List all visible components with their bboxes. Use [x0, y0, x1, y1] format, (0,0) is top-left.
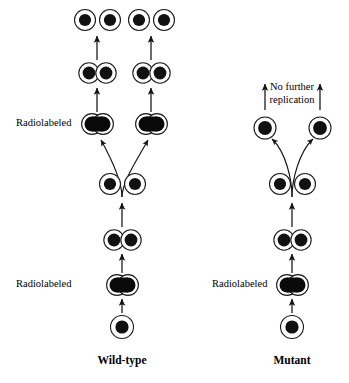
- cell-fused-left: [82, 114, 114, 135]
- cell-group-left: [75, 10, 121, 31]
- cell-nucleus-bridge: [146, 117, 157, 132]
- radiolabeled-label-lower: Radiolabeled: [16, 278, 72, 289]
- stage-separated-daughters-gen4: [75, 10, 175, 31]
- stage-radiolabeled-dividing-cell-gen1: [277, 275, 309, 296]
- radiolabeled-label-upper: Radiolabeled: [16, 117, 72, 128]
- cell-nucleus: [313, 121, 327, 135]
- cell-nucleus-bridge: [117, 278, 128, 293]
- cell-group-right: [129, 10, 175, 31]
- cell-nucleus: [83, 67, 96, 80]
- stage-dividing-cells-gen4: [79, 63, 170, 83]
- stage-founder-cell: [281, 316, 304, 339]
- cell-nucleus: [258, 121, 272, 135]
- cell-nucleus: [125, 234, 138, 247]
- stage-founder-cell: [111, 316, 134, 339]
- no-further-replication-line2: replication: [270, 94, 316, 105]
- cell-nucleus: [129, 178, 141, 190]
- panel-title-wild-type: Wild-type: [98, 354, 147, 367]
- cell-nucleus: [108, 234, 121, 247]
- cell-nucleus: [115, 320, 128, 333]
- diagram-canvas: Radiolabeled: [0, 0, 349, 383]
- stage-dividing-cell-gen2: [104, 230, 141, 250]
- cell-nucleus: [79, 14, 91, 26]
- radiolabeled-label: Radiolabeled: [212, 278, 268, 289]
- no-further-replication-line1: No further: [270, 81, 315, 92]
- cell-nucleus: [100, 67, 113, 80]
- stage-dividing-cell-gen2: [274, 230, 311, 250]
- stage-arrested-daughters: [254, 117, 331, 139]
- cell-nucleus: [104, 178, 116, 190]
- panel-title-mutant: Mutant: [273, 354, 310, 366]
- replication-diagram: Radiolabeled: [0, 0, 349, 383]
- cell-nucleus-bridge: [287, 278, 298, 293]
- cell-nucleus: [295, 234, 308, 247]
- stage-radiolabeled-dividing-cell-gen1: [107, 275, 139, 296]
- cell-doublet-right: [133, 63, 170, 83]
- cell-nucleus: [158, 14, 170, 26]
- stage-radiolabeled-dividing-cells-gen3: [82, 114, 168, 135]
- cell-nucleus: [104, 14, 116, 26]
- panel-mutant: No further replication: [212, 81, 331, 365]
- cell-nucleus: [133, 14, 145, 26]
- cell-fused-right: [136, 114, 168, 135]
- cell-nucleus: [154, 67, 167, 80]
- cell-nucleus-bridge: [92, 117, 103, 132]
- cell-nucleus: [137, 67, 150, 80]
- cell-nucleus: [278, 234, 291, 247]
- cell-nucleus: [274, 178, 286, 190]
- cell-doublet-left: [79, 63, 116, 83]
- panel-wild-type: Radiolabeled: [16, 10, 175, 367]
- cell-nucleus: [285, 320, 298, 333]
- cell-nucleus: [299, 178, 311, 190]
